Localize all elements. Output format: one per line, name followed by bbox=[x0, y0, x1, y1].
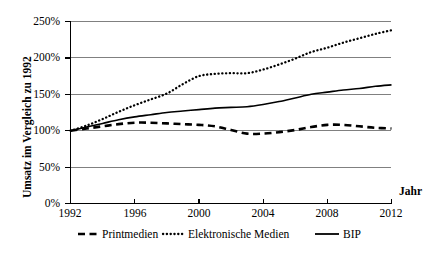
x-tick-label-1992: 1992 bbox=[48, 208, 92, 220]
x-axis-title: Jahr bbox=[399, 186, 422, 198]
axis-lines bbox=[70, 21, 392, 204]
line-chart: 250% 200% 150% 100% 50% 0% 1992 1996 200… bbox=[0, 0, 438, 257]
x-tick-label-2008: 2008 bbox=[305, 208, 349, 220]
x-tick-label-1996: 1996 bbox=[113, 208, 157, 220]
legend-label-elektronische-medien: Elektronische Medien bbox=[188, 229, 289, 241]
x-tick-label-2004: 2004 bbox=[241, 208, 285, 220]
x-tick-label-2012: 2012 bbox=[369, 208, 413, 220]
y-tick-label-250: 250% bbox=[20, 16, 60, 28]
series-line-printmedien bbox=[71, 123, 392, 134]
x-tick-label-2000: 2000 bbox=[177, 208, 221, 220]
legend-label-bip: BIP bbox=[343, 229, 361, 241]
y-axis-title: Umsatz im Vergleich zu 1992 bbox=[22, 56, 34, 198]
series-layer bbox=[71, 30, 392, 134]
legend-label-printmedien: Printmedien bbox=[102, 229, 158, 241]
series-line-elektronische-medien bbox=[71, 30, 392, 130]
x-axis-ticks bbox=[71, 199, 392, 204]
y-axis-ticks bbox=[65, 22, 70, 204]
